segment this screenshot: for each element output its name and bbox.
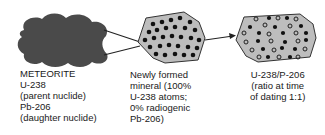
connector-line-top <box>104 30 140 42</box>
label-line: (parent nuclide) <box>20 90 97 101</box>
connector-line-bottom <box>104 46 140 55</box>
arrow-line <box>205 36 233 40</box>
meteorite-label: METEORITE U-238 (parent nuclide) Pb-206 … <box>20 68 97 123</box>
meteorite-shape <box>18 14 108 67</box>
label-line: U-238 atoms; <box>130 91 191 102</box>
label-line: of dating 1:1) <box>250 91 305 102</box>
label-line: Pb-206) <box>130 113 191 124</box>
label-line: Newly formed <box>130 69 191 80</box>
label-line: METEORITE <box>20 68 97 79</box>
label-line: (ratio at time <box>250 80 305 91</box>
label-line: U-238 <box>20 79 97 90</box>
label-line: 0% radiogenic <box>130 102 191 113</box>
newly-formed-mineral-label: Newly formed mineral (100% U-238 atoms; … <box>130 69 191 124</box>
label-line: mineral (100% <box>130 80 191 91</box>
label-line: (daughter nuclide) <box>20 112 97 123</box>
mineral-at-dating-label: U-238/P-206 (ratio at time of dating 1:1… <box>250 69 305 102</box>
label-line: Pb-206 <box>20 101 97 112</box>
label-line: U-238/P-206 <box>250 69 305 80</box>
arrowhead-icon <box>229 33 236 39</box>
mineral-at-dating-shape <box>236 14 316 62</box>
